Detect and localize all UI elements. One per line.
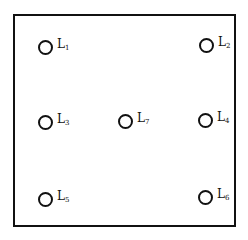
node-l2: L2 [206, 45, 207, 46]
circle-icon [38, 40, 53, 55]
node-label: L5 [57, 189, 69, 204]
circle-icon [198, 190, 213, 205]
circle-icon [38, 192, 53, 207]
node-l3: L3 [45, 122, 46, 123]
circle-icon [199, 38, 214, 53]
circle-icon [118, 114, 133, 129]
node-label: L7 [137, 111, 149, 126]
node-label: L1 [57, 37, 69, 52]
node-label: L4 [217, 110, 229, 125]
node-l5: L5 [45, 199, 46, 200]
node-label: L3 [57, 112, 69, 127]
circle-icon [38, 115, 53, 130]
node-l4: L4 [205, 120, 206, 121]
circle-icon [198, 113, 213, 128]
node-l7: L7 [125, 121, 126, 122]
node-label: L6 [217, 187, 229, 202]
node-l6: L6 [205, 197, 206, 198]
node-label: L2 [218, 35, 230, 50]
node-l1: L1 [45, 47, 46, 48]
